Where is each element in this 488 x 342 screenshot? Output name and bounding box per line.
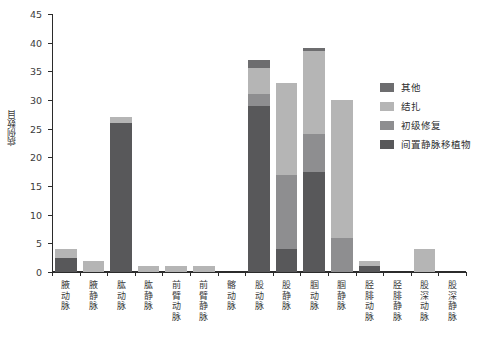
bar-segment[interactable] — [248, 94, 270, 105]
y-tick-label: 0 — [36, 267, 42, 278]
legend-item[interactable]: 初级修复 — [380, 116, 486, 135]
y-tick-label: 30 — [30, 95, 42, 106]
y-tick-mark — [48, 43, 52, 44]
bar-segment[interactable] — [276, 249, 298, 272]
x-tick-label: 肱静脉 — [142, 280, 155, 312]
legend-swatch-icon — [380, 102, 394, 111]
x-axis-tick-marks — [52, 272, 466, 278]
legend-item[interactable]: 结扎 — [380, 97, 486, 116]
y-tick-label: 10 — [30, 209, 42, 220]
x-tick-label: 髂动脉 — [225, 280, 238, 312]
x-tick-label: 腘静脉 — [335, 280, 348, 312]
x-tick-label: 股静脉 — [280, 280, 293, 312]
x-tick-label: 腋静脉 — [87, 280, 100, 312]
bar-segment[interactable] — [303, 51, 325, 134]
x-tick-mark — [135, 272, 136, 276]
x-tick-mark — [356, 272, 357, 276]
bar-group[interactable] — [248, 60, 270, 272]
bar-group[interactable] — [110, 117, 132, 272]
bar-group[interactable] — [414, 249, 436, 272]
y-tick-label: 25 — [30, 123, 42, 134]
bar-segment[interactable] — [303, 48, 325, 51]
x-tick-mark — [52, 272, 53, 276]
y-tick-label: 35 — [30, 66, 42, 77]
x-tick-mark — [245, 272, 246, 276]
bar-segment[interactable] — [83, 261, 105, 272]
x-tick-label: 前臂静脉 — [197, 280, 210, 322]
bar-group[interactable] — [303, 48, 325, 272]
y-tick-label: 45 — [30, 9, 42, 20]
y-tick-mark — [48, 243, 52, 244]
y-tick-mark — [48, 71, 52, 72]
bar-segment[interactable] — [110, 117, 132, 123]
bar-segment[interactable] — [55, 249, 77, 258]
legend-swatch-icon — [380, 121, 394, 130]
x-tick-mark — [80, 272, 81, 276]
y-axis-tick-labels: 051015202530354045 — [22, 0, 46, 342]
x-tick-mark — [107, 272, 108, 276]
x-tick-mark — [190, 272, 191, 276]
bar-group[interactable] — [83, 261, 105, 272]
x-tick-mark — [218, 272, 219, 276]
legend-swatch-icon — [380, 140, 394, 149]
x-tick-mark — [300, 272, 301, 276]
y-tick-mark — [48, 129, 52, 130]
y-tick-mark — [48, 272, 52, 273]
x-tick-mark — [411, 272, 412, 276]
bar-group[interactable] — [276, 83, 298, 272]
y-tick-label: 15 — [30, 181, 42, 192]
legend-item[interactable]: 间置静脉移植物 — [380, 135, 486, 154]
bar-segment[interactable] — [303, 134, 325, 171]
legend: 其他结扎初级修复间置静脉移植物 — [380, 78, 486, 154]
bar-group[interactable] — [359, 261, 381, 272]
x-tick-label: 腋动脉 — [59, 280, 72, 312]
legend-label: 结扎 — [401, 101, 421, 112]
bar-segment[interactable] — [331, 100, 353, 238]
x-tick-label: 前臂动脉 — [170, 280, 183, 322]
x-tick-label: 腘动脉 — [308, 280, 321, 312]
bar-segment[interactable] — [276, 83, 298, 175]
bar-group[interactable] — [331, 100, 353, 272]
x-tick-mark — [438, 272, 439, 276]
bar-segment[interactable] — [55, 258, 77, 272]
x-tick-mark — [328, 272, 329, 276]
legend-label: 间置静脉移植物 — [401, 139, 471, 150]
x-axis-tick-labels: 腋动脉腋静脉肱动脉肱静脉前臂动脉前臂静脉髂动脉股动脉股静脉腘动脉腘静脉胫腓动脉胫… — [52, 280, 466, 342]
y-tick-mark — [48, 186, 52, 187]
bar-segment[interactable] — [248, 68, 270, 94]
y-tick-mark — [48, 100, 52, 101]
legend-label: 其他 — [401, 82, 421, 93]
y-tick-label: 20 — [30, 152, 42, 163]
legend-label: 初级修复 — [401, 120, 441, 131]
y-tick-mark — [48, 14, 52, 15]
x-tick-label: 肱动脉 — [115, 280, 128, 312]
x-tick-mark — [162, 272, 163, 276]
x-tick-mark — [383, 272, 384, 276]
y-tick-label: 40 — [30, 37, 42, 48]
x-tick-label: 股动脉 — [253, 280, 266, 312]
legend-swatch-icon — [380, 83, 394, 92]
bar-segment[interactable] — [303, 172, 325, 272]
legend-item[interactable]: 其他 — [380, 78, 486, 97]
y-tick-mark — [48, 215, 52, 216]
x-tick-label: 胫腓动脉 — [363, 280, 376, 322]
x-tick-mark — [273, 272, 274, 276]
bar-segment[interactable] — [276, 175, 298, 250]
x-tick-label: 股深静脉 — [446, 280, 459, 322]
y-axis-title: 病例数目 — [6, 110, 22, 146]
bar-segment[interactable] — [110, 123, 132, 272]
x-tick-mark — [466, 272, 467, 276]
bar-chart: 病例数目 051015202530354045 腋动脉腋静脉肱动脉肱静脉前臂动脉… — [0, 0, 488, 342]
y-tick-label: 5 — [36, 238, 42, 249]
bar-group[interactable] — [55, 249, 77, 272]
bar-segment[interactable] — [248, 106, 270, 272]
bar-segment[interactable] — [359, 261, 381, 267]
bar-segment[interactable] — [331, 238, 353, 272]
bar-segment[interactable] — [248, 60, 270, 69]
bar-segment[interactable] — [414, 249, 436, 272]
x-tick-label: 胫腓静脉 — [391, 280, 404, 322]
y-tick-mark — [48, 157, 52, 158]
x-tick-label: 股深动脉 — [418, 280, 431, 322]
